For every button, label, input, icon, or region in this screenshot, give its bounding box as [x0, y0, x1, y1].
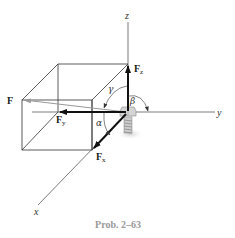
force-label-fy: Fy: [56, 114, 66, 127]
axis-label-z: z: [124, 10, 129, 21]
force-label-f: F: [7, 95, 13, 106]
force-label-fx: Fx: [96, 151, 106, 164]
angle-label-beta: β: [129, 96, 135, 106]
force-label-fz: Fz: [134, 63, 143, 76]
axis-label-x: x: [33, 206, 39, 217]
box-wireframe: [22, 64, 128, 150]
force-resultant-arrow: [24, 100, 126, 112]
angle-label-alpha: α: [96, 118, 102, 128]
force-diagram: z y x F Fz Fy Fx γ β α Prob. 2–63: [0, 0, 235, 238]
figure-caption: Prob. 2–63: [95, 219, 141, 230]
angle-label-gamma: γ: [108, 84, 114, 94]
axis-label-y: y: [216, 107, 222, 118]
